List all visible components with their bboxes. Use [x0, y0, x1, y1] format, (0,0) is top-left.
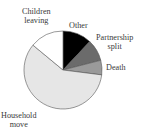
label-household-move: Household move	[1, 111, 36, 129]
pie-slices	[24, 31, 102, 109]
label-children-leaving: Children leaving	[22, 7, 51, 25]
label-other: Other	[69, 21, 88, 30]
label-death: Death	[106, 63, 126, 72]
label-partnership-split: Partnership split	[96, 33, 133, 51]
